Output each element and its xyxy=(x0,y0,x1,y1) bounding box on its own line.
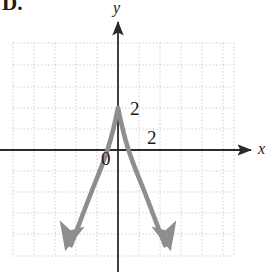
parabola-right-arrow xyxy=(167,236,169,244)
x-axis-label: x xyxy=(258,141,265,157)
x-intercept-value-label: 2 xyxy=(147,128,157,147)
vertex-y-value-label: 2 xyxy=(130,99,140,118)
y-axis-label: y xyxy=(113,0,120,16)
parabola-left-arrow xyxy=(67,236,69,244)
graph-figure: D. xyxy=(0,0,274,274)
coordinate-plane xyxy=(0,0,274,274)
origin-label: 0 xyxy=(101,149,111,168)
